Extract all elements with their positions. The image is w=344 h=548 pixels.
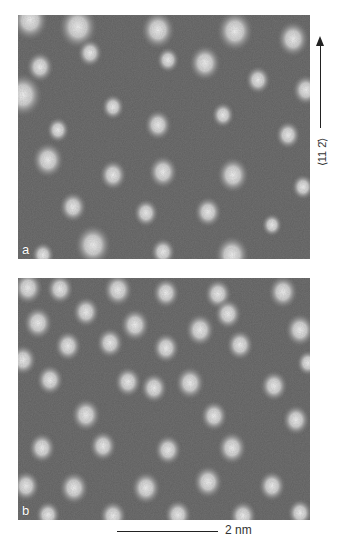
panel-label-b: b <box>22 504 29 517</box>
panel-label-a: a <box>22 243 29 256</box>
scale-bar <box>117 531 218 532</box>
crystal-direction-label: ⟨11 2̄⟩ <box>307 137 337 167</box>
micrograph-panel-b: b <box>18 278 310 520</box>
micrograph-image-a <box>18 15 310 259</box>
direction-arrow-icon <box>319 36 322 128</box>
micrograph-image-b <box>18 278 310 520</box>
scale-bar-label: 2 nm <box>225 523 252 537</box>
micrograph-panel-a: a <box>18 15 310 259</box>
arrow-shaft <box>320 44 321 128</box>
